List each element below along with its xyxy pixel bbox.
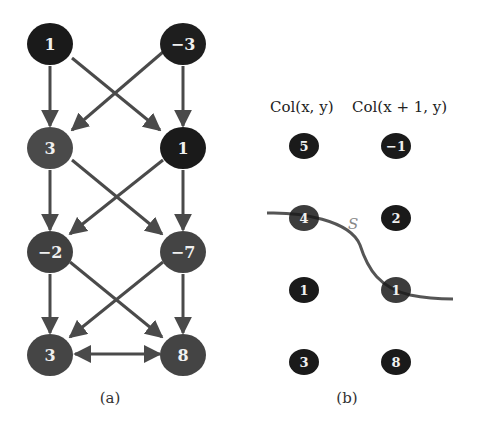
caption-a: (a) [100,389,121,407]
svg-text:−7: −7 [171,243,196,262]
node-b00: 5 [289,133,319,159]
edge-a01-a10 [72,52,163,130]
svg-text:3: 3 [44,346,55,365]
svg-text:1: 1 [44,35,55,54]
svg-text:5: 5 [299,139,308,154]
curve-label-s: S [348,215,358,233]
node-b01: −1 [381,133,411,159]
svg-text:3: 3 [299,355,308,370]
svg-text:1: 1 [177,139,188,158]
header-col-x: Col(x, y) [270,98,333,116]
node-b10: 4 [289,205,319,231]
figure: 1 −3 3 1 −2 −7 3 8 (a) Col(x, y) Col(x +… [0,0,479,424]
node-a31: 8 [160,334,206,376]
header-col-x1: Col(x + 1, y) [352,98,447,116]
node-b30: 3 [289,349,319,375]
node-a30: 3 [27,334,73,376]
panel-a-nodes: 1 −3 3 1 −2 −7 3 8 [27,23,206,376]
node-b11: 2 [381,205,411,231]
svg-text:−3: −3 [171,35,196,54]
svg-text:1: 1 [299,283,308,298]
svg-text:3: 3 [44,139,55,158]
svg-text:4: 4 [299,211,308,226]
panel-b-nodes: 5 −1 4 2 1 1 3 8 [289,133,411,375]
node-a00: 1 [27,23,73,65]
node-a20: −2 [27,231,73,273]
node-a11: 1 [160,127,206,169]
panel-a-edges [50,52,183,354]
node-b21: 1 [381,277,411,303]
caption-b: (b) [336,389,357,407]
node-b20: 1 [289,277,319,303]
svg-text:1: 1 [391,283,400,298]
node-a01: −3 [160,23,206,65]
node-a21: −7 [160,231,206,273]
node-b31: 8 [381,349,411,375]
svg-text:8: 8 [177,346,188,365]
node-a10: 3 [27,127,73,169]
svg-text:8: 8 [391,355,400,370]
svg-text:2: 2 [391,211,400,226]
svg-text:−2: −2 [38,243,63,262]
svg-text:−1: −1 [386,139,406,154]
